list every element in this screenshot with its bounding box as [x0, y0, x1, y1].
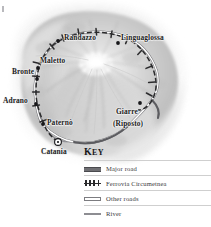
dot-giarre	[138, 101, 142, 105]
river-symbol	[84, 208, 103, 219]
place-label-randazzo: Randazzo	[64, 34, 96, 42]
key-label-ferrovia-circumetnea: Ferrovia Circumetnea	[106, 180, 167, 187]
map-key-panel: KEY Major road Ferrovia Circumetnea Othe…	[84, 146, 211, 227]
dot-adrano	[34, 102, 38, 106]
key-label-major-road: Major road	[106, 165, 137, 172]
key-item-ferrovia-circumetnea: Ferrovia Circumetnea	[84, 175, 211, 190]
other-roads-symbol	[84, 193, 103, 204]
place-label-giarre: Giarre	[116, 108, 138, 116]
place-label-riposto: (Riposto)	[113, 120, 143, 128]
key-title: KEY	[84, 146, 211, 158]
dot-paterno	[41, 122, 45, 126]
key-label-other-roads: Other roads	[106, 195, 139, 202]
place-label-bronte: Bronte	[12, 68, 34, 76]
place-label-catania: Catania	[41, 148, 67, 156]
dot-bronte	[35, 77, 39, 81]
dot-maletto	[36, 66, 40, 70]
dot-randazzo	[56, 39, 60, 43]
place-label-paterno: Paternò	[47, 119, 73, 127]
key-title-initial: K	[84, 146, 92, 157]
railway-symbol	[84, 178, 103, 189]
place-label-maletto: Maletto	[40, 57, 65, 65]
place-label-linguaglossa: Linguaglossa	[121, 34, 164, 42]
major-road-symbol	[84, 163, 103, 174]
key-title-rest: EY	[92, 148, 104, 157]
key-item-river: River	[84, 205, 211, 220]
key-label-river: River	[106, 210, 121, 217]
key-item-major-road: Major road	[84, 160, 211, 175]
place-label-adrano: Adrano	[3, 97, 28, 105]
dot-linguaglossa	[116, 41, 120, 45]
key-item-other-roads: Other roads	[84, 190, 211, 205]
etna-map-figure: Randazzo Linguaglossa Maletto Bronte Adr…	[0, 0, 211, 227]
